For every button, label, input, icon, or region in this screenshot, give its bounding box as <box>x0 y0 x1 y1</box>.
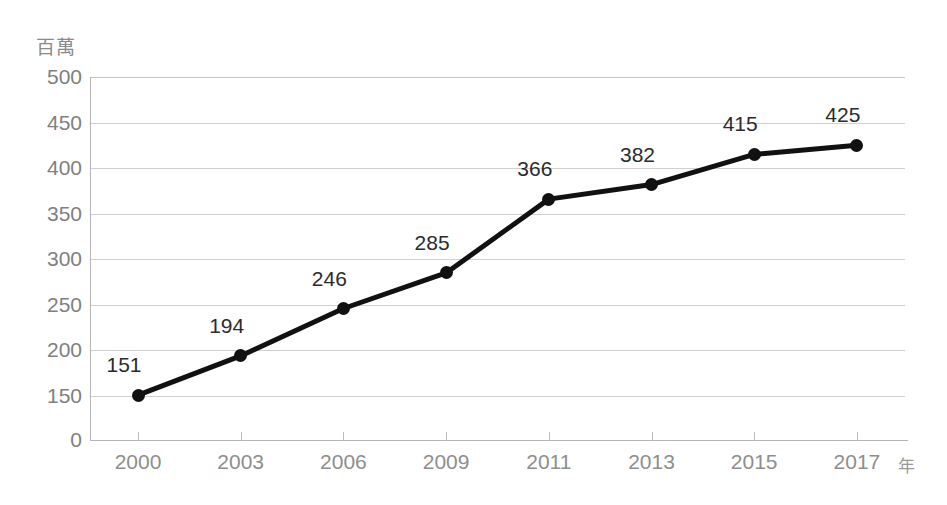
data-point-label: 415 <box>723 112 758 136</box>
data-point-label: 425 <box>825 103 860 127</box>
y-axis-tick-label: 500 <box>24 65 82 89</box>
y-axis-tick-label: 350 <box>24 202 82 226</box>
x-axis-tick-label: 2009 <box>423 450 470 474</box>
x-axis-tick-mark <box>652 432 653 441</box>
data-point-label: 246 <box>312 267 347 291</box>
data-point-marker <box>542 193 555 206</box>
y-axis-tick-label: 150 <box>24 384 82 408</box>
x-axis-tick-mark <box>343 432 344 441</box>
gridline <box>90 123 905 124</box>
y-axis-tick-label: 0 <box>24 428 82 452</box>
x-axis-tick-label: 2017 <box>834 450 881 474</box>
data-point-marker <box>748 148 761 161</box>
x-axis-tick-label: 2003 <box>217 450 264 474</box>
data-point-label: 366 <box>517 157 552 181</box>
y-axis-tick-label: 300 <box>24 247 82 271</box>
y-axis-tick-label: 200 <box>24 338 82 362</box>
data-point-marker <box>440 266 453 279</box>
gridline <box>90 168 905 169</box>
data-point-marker <box>132 389 145 402</box>
gridline <box>90 214 905 215</box>
x-axis-tick-label: 2015 <box>731 450 778 474</box>
plot-area <box>90 77 905 440</box>
x-axis-tick-label: 2013 <box>628 450 675 474</box>
data-point-marker <box>645 178 658 191</box>
gridline <box>90 350 905 351</box>
data-point-label: 151 <box>106 353 141 377</box>
x-axis-tick-label: 2006 <box>320 450 367 474</box>
x-axis-tick-mark <box>857 432 858 441</box>
y-axis-tick-label: 450 <box>24 111 82 135</box>
gridline <box>90 77 905 78</box>
y-axis-tick-label: 250 <box>24 293 82 317</box>
gridline <box>90 259 905 260</box>
y-axis-tick-labels: 5004504003503002502001500 <box>16 0 82 505</box>
data-point-marker <box>337 302 350 315</box>
x-axis-tick-mark <box>138 432 139 441</box>
x-axis-tick-label: 2011 <box>526 450 571 474</box>
y-axis-tick-label: 400 <box>24 156 82 180</box>
x-axis-line <box>90 440 908 441</box>
data-point-label: 285 <box>415 231 450 255</box>
x-axis-tick-mark <box>446 432 447 441</box>
line-chart: 百萬 年 5004504003503002502001500 200020032… <box>0 0 947 505</box>
y-axis-line <box>90 77 91 441</box>
x-axis-caption: 年 <box>898 452 915 477</box>
gridline <box>90 396 905 397</box>
x-axis-tick-mark <box>549 432 550 441</box>
gridline <box>90 305 905 306</box>
x-axis-tick-label: 2000 <box>115 450 162 474</box>
x-axis-tick-mark <box>754 432 755 441</box>
x-axis-tick-mark <box>241 432 242 441</box>
data-point-label: 194 <box>209 314 244 338</box>
data-point-label: 382 <box>620 143 655 167</box>
